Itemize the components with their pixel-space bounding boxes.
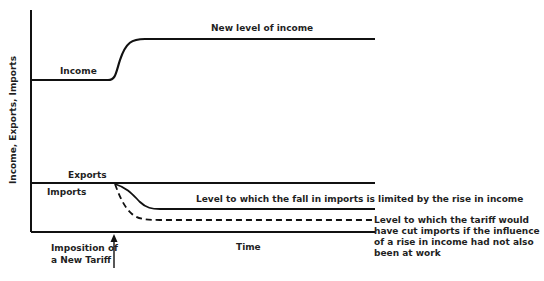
x-axis-label: Time [236,242,261,253]
income-label: Income [60,66,97,77]
arrow-head-icon [111,234,118,242]
new-income-label: New level of income [211,23,313,34]
exports-label: Exports [68,170,107,181]
tariff-level-label: Level to which the tariff would have cut… [374,215,544,259]
y-axis-label: Income, Exports, Imports [8,74,18,184]
tariff-label-line1: Imposition of [51,243,118,254]
tariff-label-line2: a New Tariff [51,255,111,266]
limited-level-label: Level to which the fall in imports is li… [196,194,523,205]
imports-label: Imports [47,187,86,198]
